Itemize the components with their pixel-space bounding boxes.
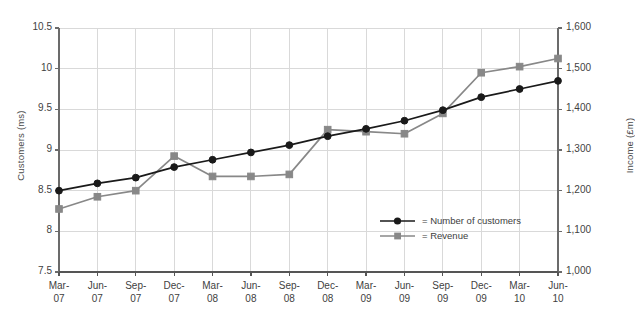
y-axis-left-tick-label: 7.5 xyxy=(6,265,52,276)
x-tick-year: 09 xyxy=(459,293,503,306)
y-axis-right-tick-label: 1,000 xyxy=(566,265,591,276)
x-tick-year: 09 xyxy=(344,293,388,306)
y-axis-right-tick-label: 1,500 xyxy=(566,62,591,73)
x-axis-tick-label: Dec-07 xyxy=(152,280,196,305)
x-axis-tick-label: Sep-08 xyxy=(267,280,311,305)
y-axis-right-tick-label: 1,100 xyxy=(566,224,591,235)
data-point-revenue xyxy=(94,193,101,200)
x-axis-tick-label: Jun-10 xyxy=(536,280,580,305)
x-axis-tick-label: Mar-08 xyxy=(191,280,235,305)
x-axis-tick-label: Jun-09 xyxy=(382,280,426,305)
data-point-revenue xyxy=(324,126,331,133)
y-axis-left-tick-label: 8 xyxy=(6,224,52,235)
data-point-revenue xyxy=(171,153,178,160)
y-axis-right-tick-label: 1,300 xyxy=(566,143,591,154)
x-tick-year: 10 xyxy=(498,293,542,306)
data-point-customers xyxy=(478,94,485,101)
x-tick-month: Dec- xyxy=(152,280,196,293)
data-point-customers xyxy=(56,187,63,194)
data-point-revenue xyxy=(555,55,562,62)
data-point-customers xyxy=(324,133,331,140)
x-tick-month: Mar- xyxy=(498,280,542,293)
legend-label-customers: = Number of customers xyxy=(422,215,521,226)
legend-marker-square xyxy=(394,233,401,240)
data-point-customers xyxy=(94,180,101,187)
y-axis-right-tick-label: 1,600 xyxy=(566,21,591,32)
series-line-revenue xyxy=(59,59,558,209)
data-point-customers xyxy=(209,156,216,163)
data-point-customers xyxy=(248,149,255,156)
x-axis-tick-label: Dec-09 xyxy=(459,280,503,305)
data-point-revenue xyxy=(401,130,408,137)
x-axis-tick-label: Mar-10 xyxy=(498,280,542,305)
x-tick-year: 09 xyxy=(382,293,426,306)
x-tick-year: 08 xyxy=(267,293,311,306)
x-tick-month: Mar- xyxy=(191,280,235,293)
data-point-customers xyxy=(555,77,562,84)
data-point-revenue xyxy=(56,206,63,213)
x-tick-year: 10 xyxy=(536,293,580,306)
data-point-revenue xyxy=(132,187,139,194)
data-point-customers xyxy=(171,164,178,171)
data-point-customers xyxy=(516,86,523,93)
data-point-customers xyxy=(401,117,408,124)
x-tick-year: 07 xyxy=(75,293,119,306)
data-point-customers xyxy=(439,107,446,114)
data-point-revenue xyxy=(478,69,485,76)
data-point-revenue xyxy=(248,173,255,180)
x-tick-month: Dec- xyxy=(459,280,503,293)
x-tick-month: Jun- xyxy=(382,280,426,293)
x-tick-year: 07 xyxy=(152,293,196,306)
x-tick-year: 08 xyxy=(191,293,235,306)
x-tick-month: Mar- xyxy=(344,280,388,293)
data-point-customers xyxy=(132,174,139,181)
legend-marker-circle xyxy=(394,217,401,224)
y-axis-left-tick-label: 10.5 xyxy=(6,21,52,32)
x-axis-tick-label: Jun-07 xyxy=(75,280,119,305)
x-axis-tick-label: Mar-09 xyxy=(344,280,388,305)
x-tick-month: Jun- xyxy=(75,280,119,293)
data-point-revenue xyxy=(286,171,293,178)
data-point-customers xyxy=(286,142,293,149)
y-axis-left-tick-label: 10 xyxy=(6,62,52,73)
x-tick-month: Sep- xyxy=(267,280,311,293)
y-axis-right-tick-label: 1,400 xyxy=(566,102,591,113)
legend-label-revenue: = Revenue xyxy=(422,230,468,241)
y-axis-left-tick-label: 9 xyxy=(6,143,52,154)
data-point-customers xyxy=(363,125,370,132)
x-tick-month: Jun- xyxy=(536,280,580,293)
y-axis-left-tick-label: 8.5 xyxy=(6,184,52,195)
y-axis-right-tick-label: 1,200 xyxy=(566,184,591,195)
y-axis-left-tick-label: 9.5 xyxy=(6,102,52,113)
data-point-revenue xyxy=(516,63,523,70)
data-point-revenue xyxy=(209,173,216,180)
